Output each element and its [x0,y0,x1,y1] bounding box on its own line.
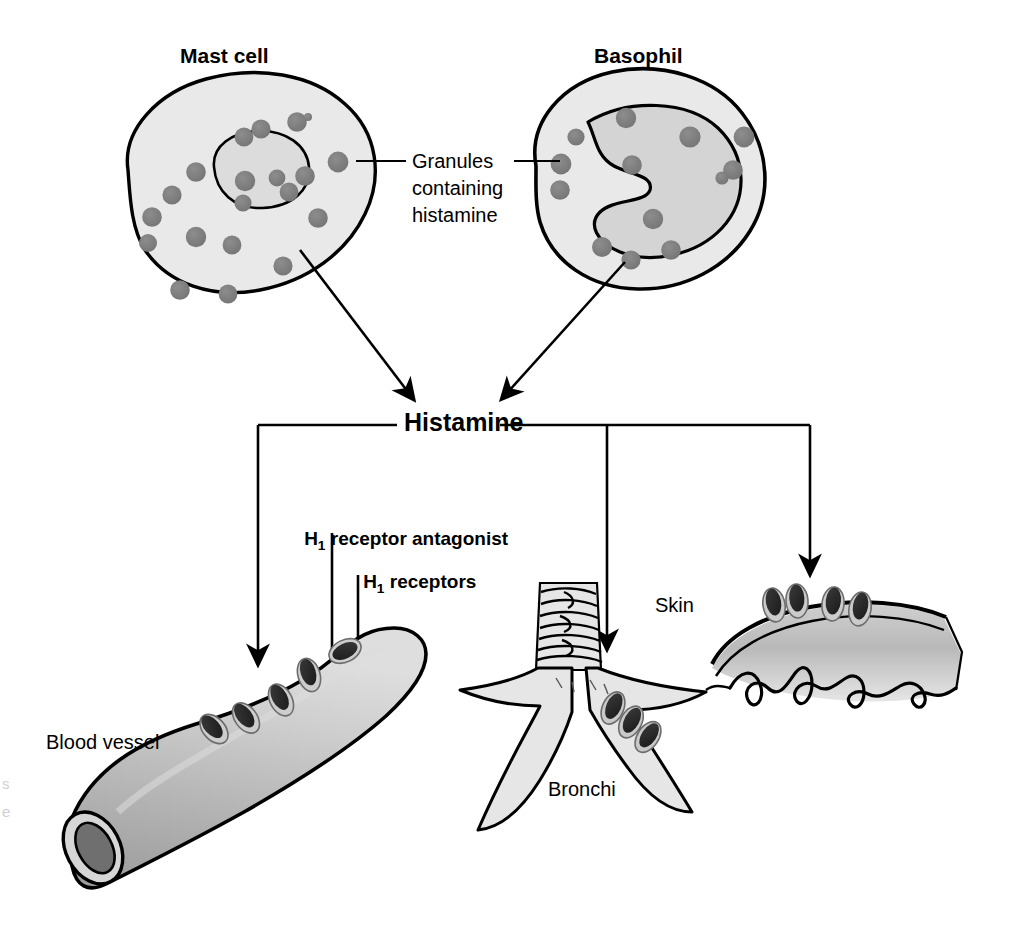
label-blood-vessel: Blood vessel [46,731,159,755]
h1-antagonist-h: H [304,528,318,549]
figure-canvas: s e [0,0,1028,928]
granules-label-line-2: containing [412,175,503,202]
h1-receptors-h: H [363,571,377,592]
label-granules-containing-histamine: Granules containing histamine [412,148,503,229]
label-mast-cell: Mast cell [180,44,269,69]
label-basophil: Basophil [594,44,683,69]
skin-illustration [706,583,962,707]
arrow-basophil-to-histamine [508,262,625,392]
granules-label-line-3: histamine [412,202,503,229]
edge-text-fragment-2: e [2,800,10,823]
label-histamine: Histamine [404,408,523,438]
mast-cell-illustration [127,73,406,304]
arrow-mast-to-histamine [300,250,408,392]
granules-label-line-1: Granules [412,148,503,175]
diagram-graphics [0,0,1028,928]
label-skin: Skin [655,594,694,618]
h1-antagonist-rest: receptor antagonist [325,528,508,549]
h1-receptors-rest: receptors [384,571,476,592]
basophil-illustration [514,69,765,289]
blood-vessel-illustration [51,628,426,894]
label-bronchi: Bronchi [548,778,616,802]
edge-text-fragment-1: s [2,772,10,795]
label-h1-receptors: H1 receptors [342,549,476,620]
